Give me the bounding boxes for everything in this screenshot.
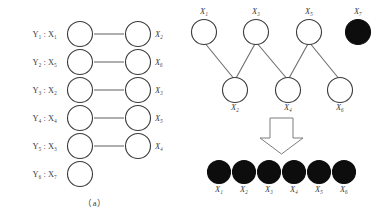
label-result-x1: X₁ [214, 185, 223, 194]
node-result-x5[interactable] [308, 161, 331, 184]
panel-b-graph: X₁ X₃ X₅ X₇ X₂ X₄ X₆ X₁ X₂ X₃ [190, 0, 377, 200]
node-bottom-x4[interactable] [276, 78, 301, 103]
right-label-3: X₃ [154, 86, 163, 95]
node-result-x6[interactable] [333, 161, 356, 184]
row-label-2: Y₂ : X₅ [33, 58, 58, 67]
row-label-4: Y₄ : X₄ [33, 114, 58, 123]
right-label-2: X₆ [154, 58, 163, 67]
right-label-1: X₂ [154, 30, 163, 39]
node-right-2[interactable] [126, 50, 151, 75]
node-top-x5[interactable] [297, 20, 322, 45]
row-label-3: Y₃ : X₂ [33, 86, 58, 95]
node-bottom-x2[interactable] [223, 78, 248, 103]
node-left-1[interactable] [68, 22, 93, 47]
down-arrow-icon [260, 118, 303, 154]
node-left-2[interactable] [68, 50, 93, 75]
label-result-x4: X₄ [289, 185, 298, 194]
node-top-x1[interactable] [192, 20, 217, 45]
node-result-x1[interactable] [208, 161, 231, 184]
node-right-3[interactable] [126, 78, 151, 103]
label-bottom-x6: X₆ [335, 103, 344, 112]
label-result-x2: X₂ [239, 185, 248, 194]
row-label-6: Y₆ : X₇ [33, 170, 58, 179]
panel-a: Y₁ : X₁ Y₂ : X₅ Y₃ : X₂ Y₄ : X₄ Y₅ : X₃ … [0, 0, 190, 221]
node-bottom-x6[interactable] [328, 78, 353, 103]
node-result-x3[interactable] [258, 161, 281, 184]
edge-x3-x4 [256, 42, 288, 80]
label-bottom-x4: X₄ [283, 103, 292, 112]
node-result-x4[interactable] [283, 161, 306, 184]
node-result-x2[interactable] [233, 161, 256, 184]
node-left-6[interactable] [68, 162, 93, 187]
node-top-x3[interactable] [244, 20, 269, 45]
label-top-x5: X₅ [304, 7, 313, 16]
edge-x3-x2 [235, 42, 256, 80]
right-label-4: X₅ [154, 114, 163, 123]
label-result-x5: X₅ [314, 185, 323, 194]
right-label-5: X₄ [154, 142, 163, 151]
row-label-1: Y₁ : X₁ [33, 30, 58, 39]
figure-root: Y₁ : X₁ Y₂ : X₅ Y₃ : X₂ Y₄ : X₄ Y₅ : X₃ … [0, 0, 377, 221]
label-bottom-x2: X₂ [230, 103, 239, 112]
panel-a-graph: Y₁ : X₁ Y₂ : X₅ Y₃ : X₂ Y₄ : X₄ Y₅ : X₃ … [0, 0, 190, 195]
edge-x1-x2 [204, 42, 235, 80]
node-right-1[interactable] [126, 22, 151, 47]
label-result-x3: X₃ [264, 185, 273, 194]
node-right-4[interactable] [126, 106, 151, 131]
node-left-5[interactable] [68, 134, 93, 159]
edge-x5-x6 [309, 42, 340, 80]
label-result-x6: X₆ [339, 185, 348, 194]
caption-panel-a: （a） [0, 196, 190, 208]
label-top-x1: X₁ [199, 7, 208, 16]
node-left-4[interactable] [68, 106, 93, 131]
panel-b: X₁ X₃ X₅ X₇ X₂ X₄ X₆ X₁ X₂ X₃ [190, 0, 377, 221]
node-left-3[interactable] [68, 78, 93, 103]
edge-x5-x4 [288, 42, 309, 80]
label-top-x7: X₇ [353, 7, 362, 16]
node-right-5[interactable] [126, 134, 151, 159]
label-top-x3: X₃ [251, 7, 260, 16]
row-label-5: Y₅ : X₃ [33, 142, 58, 151]
node-top-x7[interactable] [346, 20, 371, 45]
